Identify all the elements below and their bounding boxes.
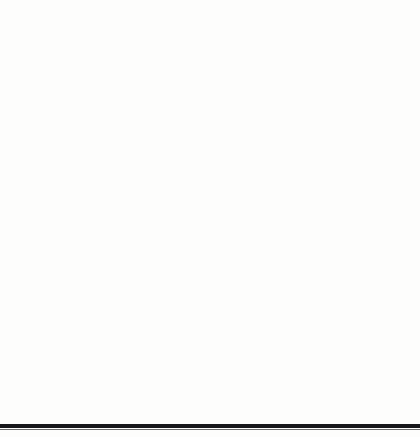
objective-throughput-plot: [0, 215, 420, 420]
figure-page: [0, 0, 420, 437]
page-footer-rule-secondary: [0, 429, 420, 430]
page-footer-rule: [0, 424, 420, 428]
fitness-evaluations-plot: [0, 0, 420, 215]
chart-fitness-evaluations: [0, 0, 420, 215]
chart-objective-throughput: [0, 215, 420, 420]
